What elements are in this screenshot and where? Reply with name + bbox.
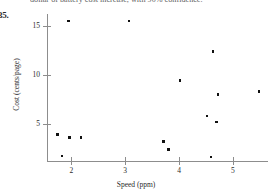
data-point — [215, 121, 218, 124]
x-tick-label: 5 — [226, 167, 240, 175]
x-tick-mark — [71, 157, 72, 165]
data-point — [217, 93, 220, 96]
data-point — [80, 136, 83, 139]
scatterplot-figure: 51015 2345 Speed (ppm) Cost (cents/page) — [0, 0, 272, 192]
y-tick-label: 15 — [26, 22, 40, 30]
y-tick-label: 5 — [26, 120, 40, 128]
plot-area: 51015 2345 Speed (ppm) Cost (cents/page) — [0, 0, 272, 192]
data-point — [162, 140, 165, 143]
x-tick-label: 3 — [118, 167, 132, 175]
data-point — [210, 156, 213, 159]
x-tick-label: 4 — [172, 167, 186, 175]
x-tick-mark — [125, 157, 126, 165]
data-point — [128, 20, 131, 23]
data-point — [179, 79, 182, 82]
data-point — [56, 133, 59, 136]
x-tick-label: 2 — [64, 167, 78, 175]
data-point — [212, 50, 215, 53]
y-tick-mark — [43, 124, 51, 125]
y-tick-mark — [43, 26, 51, 27]
data-point — [68, 136, 71, 139]
y-tick-label: 10 — [26, 71, 40, 79]
y-axis-line — [47, 14, 48, 162]
x-tick-mark — [233, 157, 234, 165]
data-point — [67, 20, 70, 23]
y-tick-mark — [43, 75, 51, 76]
x-axis-line — [47, 161, 268, 162]
data-point — [167, 148, 170, 151]
data-point — [206, 115, 209, 118]
x-tick-mark — [179, 157, 180, 165]
data-point — [61, 155, 64, 158]
x-axis-title: Speed (ppm) — [0, 180, 272, 189]
y-axis-title: Cost (cents/page) — [12, 39, 21, 131]
data-point — [258, 90, 261, 93]
